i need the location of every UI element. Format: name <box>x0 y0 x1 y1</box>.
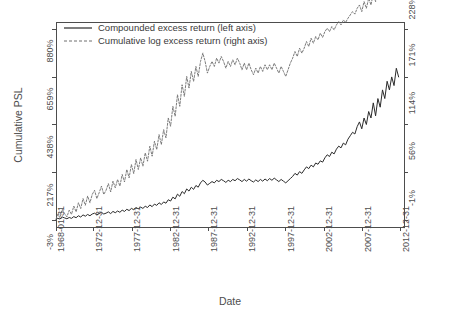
x-axis-label-9: 2007-12-31 <box>363 206 374 262</box>
y-axis-right-label-3: 114% <box>406 81 418 125</box>
x-axis-label-4: 1982-12-31 <box>171 206 182 262</box>
x-axis-label-7: 1997-12-31 <box>286 206 297 262</box>
x-axis-label-8: 2002-12-31 <box>324 206 335 262</box>
series-line-1 <box>56 68 399 219</box>
x-axis-label-1: 1968-01-31 <box>56 206 67 262</box>
x-axis-label-3: 1977-12-31 <box>132 206 143 262</box>
x-axis-label-5: 1987-12-31 <box>209 206 220 262</box>
y-axis-left-label-1: -3% <box>44 220 56 264</box>
plot-frame <box>56 22 404 227</box>
chart-figure: Compounded excess return (left axis)Cumu… <box>0 0 460 317</box>
legend-label-2: Cumulative log excess return (right axis… <box>98 35 267 46</box>
y-axis-left-label-5: 880% <box>44 29 56 73</box>
x-axis-label-10: 2012-12-31 <box>401 206 412 262</box>
y-axis-left-label-4: 659% <box>44 77 56 121</box>
y-axis-right-label-4: 171% <box>406 33 418 77</box>
y-axis-title: Cumulative PSL <box>11 65 25 185</box>
chart-svg <box>0 0 460 317</box>
y-axis-right-label-2: 56% <box>406 129 418 173</box>
y-axis-left-label-2: 217% <box>44 173 56 217</box>
x-axis-label-6: 1992-12-31 <box>247 206 258 262</box>
x-axis-label-2: 1972-12-31 <box>94 206 105 262</box>
y-axis-left-label-3: 438% <box>44 125 56 169</box>
legend-label-1: Compounded excess return (left axis) <box>98 22 256 33</box>
x-axis-title: Date <box>0 295 460 307</box>
y-axis-right-label-5: 228% <box>406 0 418 30</box>
